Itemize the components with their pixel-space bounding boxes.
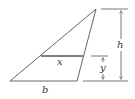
base-label: b: [42, 84, 48, 95]
distance-label: y: [99, 62, 106, 73]
triangle-diagram: x b h y: [0, 0, 135, 99]
triangle: [10, 9, 96, 81]
segment-label: x: [57, 56, 63, 67]
height-label: h: [117, 39, 123, 50]
triangle-left-side: [10, 9, 96, 81]
triangle-right-side: [77, 9, 96, 81]
